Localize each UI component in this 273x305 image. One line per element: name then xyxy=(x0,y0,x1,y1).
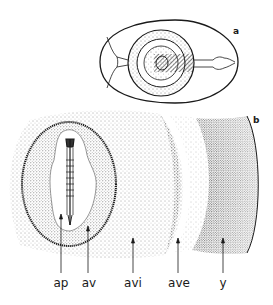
label-ave: ave xyxy=(168,276,190,290)
embryo xyxy=(66,139,74,225)
panel-a-egg xyxy=(100,20,238,103)
left-chalaza xyxy=(107,37,128,88)
panel-label-b: b xyxy=(253,115,259,125)
right-chalaza xyxy=(194,57,235,69)
label-y: y xyxy=(219,276,226,290)
label-av: av xyxy=(82,276,96,290)
panel-label-a: a xyxy=(233,26,239,36)
label-avi: avi xyxy=(124,276,142,290)
panel-b-blastoderm xyxy=(10,110,258,273)
figure-canvas xyxy=(0,0,273,305)
label-ap: ap xyxy=(54,276,69,290)
